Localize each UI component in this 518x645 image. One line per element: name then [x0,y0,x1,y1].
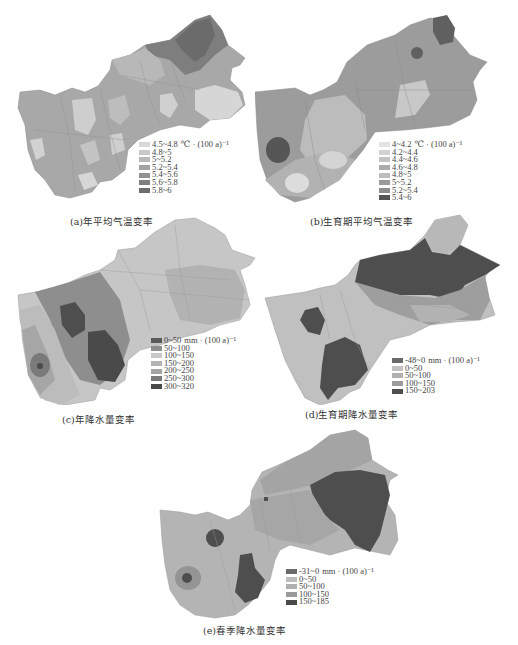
legend-swatch [286,600,297,605]
legend-swatch [139,150,150,155]
legend-swatch [151,376,162,381]
legend-swatch [379,150,390,155]
legend-swatch [379,157,390,162]
legend-swatch [151,384,162,389]
legend-swatch [151,338,162,343]
legend-swatch [392,373,403,378]
legend-swatch [286,577,297,582]
legend-swatch [379,180,390,185]
legend-e: -31~0mm · (100 a)⁻¹ 0~50 50~100 100~150 … [286,568,374,606]
legend-swatch [286,592,297,597]
legend-swatch [392,381,403,386]
legend-item: 5.4~6 [379,194,462,202]
legend-item: 150~203 [392,387,480,395]
legend-swatch [286,569,297,574]
legend-swatch [392,358,403,363]
legend-swatch [151,361,162,366]
legend-swatch [139,165,150,170]
legend-item: 5.8~6 [139,187,229,195]
legend-swatch [379,142,390,147]
panel-e: -31~0mm · (100 a)⁻¹ 0~50 50~100 100~150 … [140,420,420,645]
legend-swatch [392,389,403,394]
legend-item: 150~185 [286,598,374,606]
legend-swatch [392,366,403,371]
legend-swatch [151,369,162,374]
panel-d: -48~0mm · (100 a)⁻¹ 0~50 50~100 100~150 … [260,210,518,430]
legend-d-box: -48~0mm · (100 a)⁻¹ 0~50 50~100 100~150 … [392,357,480,395]
legend-item: 300~320 [151,383,236,391]
caption-e: (e)春季降水量变率 [203,623,286,637]
legend-swatch [151,353,162,358]
legend-swatch [379,165,390,170]
caption-c: (c)年降水量变率 [62,412,135,426]
legend-swatch [139,188,150,193]
legend-a: 4.5~4.8℃ · (100 a)⁻¹ 4.8~5 5~5.2 5.2~5.4… [139,141,229,194]
legend-swatch [139,157,150,162]
legend-swatch [151,346,162,351]
panel-c: 0~50mm · (100 a)⁻¹ 50~100 100~150 150~20… [0,210,270,430]
legend-swatch [379,188,390,193]
panel-a: 4.5~4.8℃ · (100 a)⁻¹ 4.8~5 5~5.2 5.2~5.4… [0,0,260,230]
legend-swatch [286,584,297,589]
legend-swatch [379,173,390,178]
legend-swatch [139,180,150,185]
caption-d: (d)生育期降水量变率 [305,407,399,421]
panel-b: 4~4.2℃ · (100 a)⁻¹ 4.2~4.4 4.4~4.6 4.6~4… [255,0,518,230]
legend-swatch [139,142,150,147]
legend-c: 0~50mm · (100 a)⁻¹ 50~100 100~150 150~20… [151,337,236,390]
legend-b: 4~4.2℃ · (100 a)⁻¹ 4.2~4.4 4.4~4.6 4.6~4… [379,141,462,202]
legend-swatch [139,173,150,178]
legend-swatch [379,195,390,200]
